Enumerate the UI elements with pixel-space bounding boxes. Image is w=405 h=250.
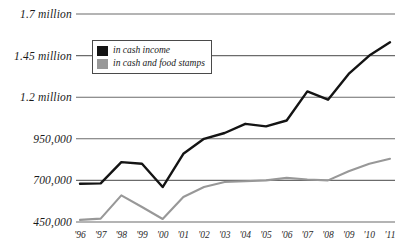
legend-label-cash-income: in cash income (113, 46, 170, 56)
legend-swatch-cash-and-food-stamps (97, 59, 108, 69)
chart-legend: in cash income in cash and food stamps (92, 40, 212, 74)
line-chart: 450,000700,000950,0001.2 million1.45 mil… (0, 0, 405, 250)
legend-swatch-cash-income (97, 46, 108, 56)
legend-label-cash-and-food-stamps: in cash and food stamps (113, 59, 205, 69)
legend-item-cash-income: in cash income (97, 44, 205, 57)
series-line-cash-and-food-stamps (80, 159, 390, 220)
plot-area (0, 0, 405, 250)
legend-item-cash-and-food-stamps: in cash and food stamps (97, 57, 205, 70)
